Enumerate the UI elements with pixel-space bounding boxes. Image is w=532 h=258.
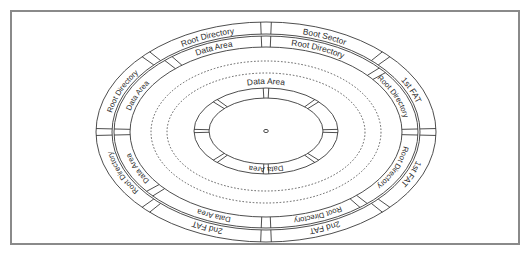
disk-divider-0 bbox=[263, 88, 264, 98]
outer-divider-7 bbox=[150, 52, 161, 61]
disk-divider-0 bbox=[268, 88, 269, 98]
disk-divider-5 bbox=[213, 153, 224, 160]
inner-divider-4 bbox=[270, 217, 271, 228]
disk-divider-3 bbox=[308, 153, 319, 160]
outer-divider-1 bbox=[378, 57, 390, 65]
outer-divider-5 bbox=[150, 203, 161, 212]
inner-disk-label-top: Data Area bbox=[246, 76, 286, 87]
outer-divider-1 bbox=[371, 52, 382, 61]
inner-divider-3 bbox=[357, 195, 368, 203]
outer-divider-4 bbox=[271, 230, 272, 242]
outer-divider-0 bbox=[271, 22, 272, 34]
disk-diagram: Root Directory Boot Sector 1st FAT 1st F… bbox=[0, 0, 532, 258]
inner-divider-5 bbox=[147, 185, 160, 192]
inner-divider-7 bbox=[172, 57, 182, 66]
inner-disk bbox=[194, 88, 338, 174]
inner-divider-5 bbox=[153, 189, 165, 196]
inner-divider-1 bbox=[367, 68, 379, 75]
middle-edge-outer bbox=[112, 34, 420, 230]
disk-divider-1 bbox=[305, 99, 315, 106]
inner-disk-outer bbox=[194, 88, 338, 174]
inner-disk-inner bbox=[209, 98, 323, 164]
inner-divider-4 bbox=[261, 217, 262, 228]
disk-divider-7 bbox=[217, 99, 227, 106]
outer-divider-4 bbox=[261, 230, 262, 242]
middle-edge-inner bbox=[114, 36, 418, 228]
outer-divider-0 bbox=[261, 22, 262, 34]
disk-divider-3 bbox=[305, 155, 315, 162]
outer-divider-3 bbox=[378, 199, 390, 207]
spindle-hole bbox=[264, 129, 269, 132]
outer-divider-7 bbox=[142, 57, 154, 65]
sector-dividers bbox=[96, 22, 436, 242]
outer-tracks bbox=[96, 22, 436, 242]
inner-divider-0 bbox=[270, 36, 271, 47]
inner-divider-0 bbox=[261, 36, 262, 47]
inner-edge bbox=[130, 47, 402, 217]
outer-divider-5 bbox=[142, 199, 154, 207]
inner-disk-label-bottom: Data Area bbox=[247, 163, 284, 174]
inner-divider-3 bbox=[350, 199, 360, 208]
outer-edge bbox=[96, 22, 436, 242]
inner-divider-7 bbox=[165, 60, 176, 68]
outer-divider-3 bbox=[371, 203, 382, 212]
disk-divider-5 bbox=[217, 155, 227, 162]
disk-divider-7 bbox=[213, 102, 224, 109]
disk-divider-1 bbox=[308, 102, 319, 109]
